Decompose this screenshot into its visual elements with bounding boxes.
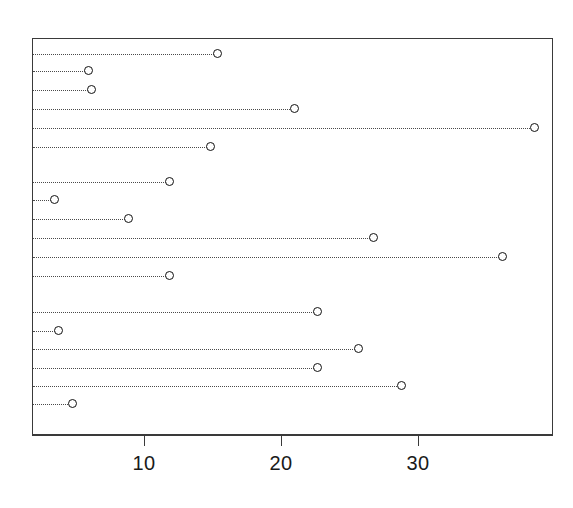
- data-row: [33, 182, 554, 183]
- data-point-marker[interactable]: [290, 104, 299, 113]
- leader-line: [33, 128, 534, 129]
- data-row: [33, 200, 554, 201]
- data-row: [33, 331, 554, 332]
- data-row: [33, 109, 554, 110]
- data-point-marker[interactable]: [530, 123, 539, 132]
- data-row: [33, 368, 554, 369]
- leader-line: [33, 386, 401, 387]
- data-point-marker[interactable]: [313, 307, 322, 316]
- data-row: [33, 147, 554, 148]
- data-point-marker[interactable]: [165, 177, 174, 186]
- data-row: [33, 276, 554, 277]
- leader-line: [33, 404, 72, 405]
- leader-line: [33, 71, 89, 72]
- leader-line: [33, 368, 318, 369]
- data-point-marker[interactable]: [213, 49, 222, 58]
- x-axis-tick: [144, 435, 145, 446]
- data-point-marker[interactable]: [84, 66, 93, 75]
- data-row: [33, 257, 554, 258]
- x-axis-tick-label: 20: [269, 452, 292, 475]
- data-row: [33, 404, 554, 405]
- data-point-marker[interactable]: [369, 233, 378, 242]
- x-axis-tick: [281, 435, 282, 446]
- data-row: [33, 54, 554, 55]
- data-point-marker[interactable]: [397, 381, 406, 390]
- leader-line: [33, 312, 318, 313]
- leader-line: [33, 182, 170, 183]
- leader-line: [33, 147, 211, 148]
- leader-line: [33, 109, 294, 110]
- data-point-marker[interactable]: [165, 271, 174, 280]
- plot-panel: [32, 38, 553, 435]
- leader-line: [33, 257, 503, 258]
- data-row: [33, 71, 554, 72]
- data-point-marker[interactable]: [313, 363, 322, 372]
- leader-line: [33, 54, 218, 55]
- x-axis-tick-label: 10: [132, 452, 155, 475]
- data-point-marker[interactable]: [354, 344, 363, 353]
- data-row: [33, 312, 554, 313]
- data-point-marker[interactable]: [50, 195, 59, 204]
- leader-line: [33, 219, 129, 220]
- data-point-marker[interactable]: [206, 142, 215, 151]
- leader-line: [33, 238, 374, 239]
- leader-line: [33, 90, 92, 91]
- x-axis-line: [32, 435, 553, 436]
- data-row: [33, 349, 554, 350]
- x-axis-tick-label: 30: [406, 452, 429, 475]
- data-point-marker[interactable]: [54, 326, 63, 335]
- data-point-marker[interactable]: [87, 85, 96, 94]
- leader-line: [33, 276, 170, 277]
- data-row: [33, 386, 554, 387]
- data-point-marker[interactable]: [68, 399, 77, 408]
- data-row: [33, 90, 554, 91]
- data-row: [33, 238, 554, 239]
- x-axis-tick: [418, 435, 419, 446]
- data-row: [33, 128, 554, 129]
- x-axis: 102030: [32, 435, 553, 505]
- dot-plot-figure: 102030: [0, 0, 573, 508]
- data-point-marker[interactable]: [124, 214, 133, 223]
- data-row: [33, 219, 554, 220]
- data-point-marker[interactable]: [498, 252, 507, 261]
- leader-line: [33, 349, 359, 350]
